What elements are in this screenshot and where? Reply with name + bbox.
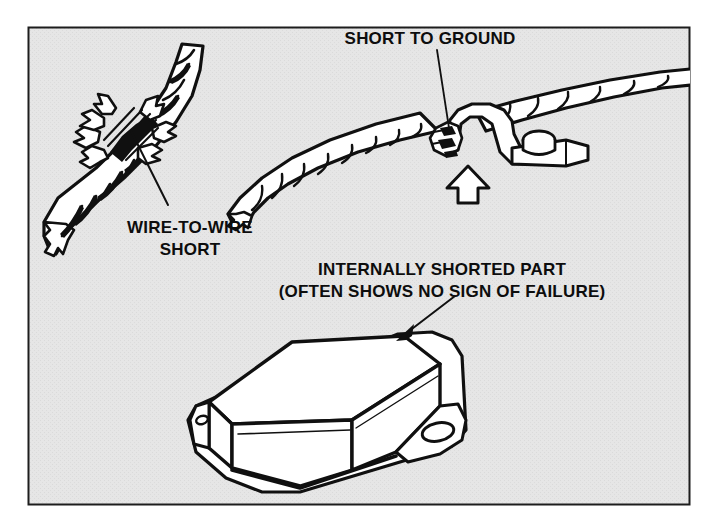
- clamp-bolt-shank: [523, 140, 555, 155]
- callout-short-to-ground: SHORT TO GROUND: [345, 29, 516, 48]
- callout-short-to-ground-line-1: SHORT TO GROUND: [345, 29, 516, 48]
- callout-internally-shorted-line-2: (OFTEN SHOWS NO SIGN OF FAILURE): [279, 282, 606, 301]
- callout-internally-shorted-line-1: INTERNALLY SHORTED PART: [318, 260, 566, 279]
- figure-root: SHORT TO GROUND WIRE-TO-WIRE SHORT INTER…: [0, 0, 714, 529]
- callout-wire-to-wire-line-2: SHORT: [160, 240, 221, 259]
- short-circuit-illustration: SHORT TO GROUND WIRE-TO-WIRE SHORT INTER…: [0, 0, 714, 529]
- callout-wire-to-wire-line-1: WIRE-TO-WIRE: [127, 218, 253, 237]
